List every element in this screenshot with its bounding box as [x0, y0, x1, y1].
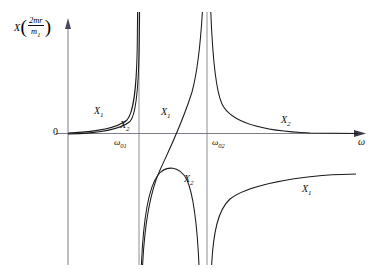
curve-x1-right: [212, 174, 356, 265]
curve-label-x1-middle: X1: [161, 107, 171, 120]
chart-canvas: [0, 0, 390, 269]
y-axis-label: X ( 2mr m1 ): [14, 16, 51, 38]
y-axis-label-fraction: 2mr m1: [28, 16, 44, 38]
curve-label-x2-middle: X2: [184, 174, 194, 187]
tick-label-omega01: ω01: [114, 138, 127, 149]
curve-x1-middle: [143, 12, 203, 265]
tick-label-omega02: ω02: [212, 138, 225, 149]
curve-x2-left: [68, 12, 140, 134]
curve-label-x1-right: X1: [302, 184, 312, 197]
origin-label: 0: [53, 127, 58, 137]
x-axis-label: ω: [358, 137, 365, 147]
curve-label-x2-right: X2: [281, 115, 291, 128]
y-axis-label-denominator: m1: [30, 27, 41, 39]
y-axis-arrowhead: [65, 18, 71, 29]
y-axis-label-symbol: X: [14, 22, 20, 33]
y-axis-label-numerator: 2mr: [28, 16, 44, 25]
y-axis-label-open-paren: (: [21, 19, 27, 35]
curve-label-x2-left: X2: [120, 120, 130, 133]
curve-label-x1-left: X1: [94, 106, 104, 119]
resonance-amplitude-chart: X ( 2mr m1 ) 0 ω ω01 ω02 X1 X2 X1 X2 X2 …: [0, 0, 390, 269]
y-axis-label-close-paren: ): [45, 19, 51, 35]
